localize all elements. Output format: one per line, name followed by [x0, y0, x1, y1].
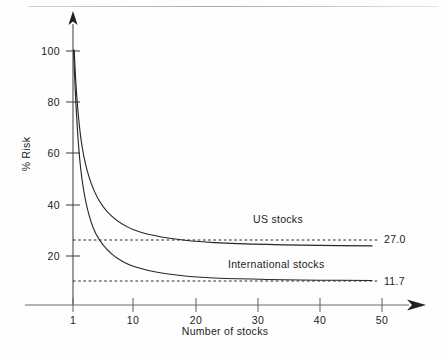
- asymptote-value-international-stocks: 11.7: [384, 275, 405, 287]
- y-tick-label-20: 20: [34, 250, 60, 262]
- series-label-us-stocks: US stocks: [253, 213, 303, 225]
- series-label-international-stocks: International stocks: [228, 258, 324, 270]
- x-tick-label-50: 50: [367, 314, 397, 326]
- asymptote-value-us-stocks: 27.0: [384, 233, 406, 245]
- x-tick-label-10: 10: [118, 314, 148, 326]
- y-axis-title: % Risk: [20, 124, 32, 184]
- x-tick-label-1: 1: [58, 314, 88, 326]
- y-tick-label-80: 80: [34, 96, 60, 108]
- chart-plot-area: [0, 0, 442, 355]
- x-axis-arrowhead: [407, 300, 426, 311]
- x-tick-label-40: 40: [305, 314, 335, 326]
- chart-figure: 100 80 60 40 20 1 10 20 30 40 50 % Risk …: [0, 0, 442, 355]
- y-tick-label-100: 100: [34, 45, 60, 57]
- y-tick-label-40: 40: [34, 199, 60, 211]
- y-axis-arrowhead: [68, 11, 77, 25]
- y-tick-label-60: 60: [34, 147, 60, 159]
- series-curve-us-stocks: [74, 50, 372, 246]
- x-axis-title: Number of stocks: [155, 325, 295, 337]
